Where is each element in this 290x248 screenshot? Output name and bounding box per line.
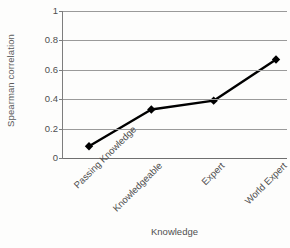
y-axis-tick-label: 0.8: [36, 36, 58, 46]
y-axis-tickmark: [59, 40, 63, 41]
x-axis-tick-label: Passing Knowledge: [71, 160, 101, 190]
gridline: [63, 70, 287, 71]
gridline: [63, 99, 287, 100]
series-line: [89, 60, 276, 147]
y-axis-tickmark: [59, 99, 63, 100]
y-axis-tick-label: 0.2: [36, 124, 58, 134]
y-axis-tickmark: [59, 70, 63, 71]
y-axis-tickmark: [59, 129, 63, 130]
y-axis-tick-label: 1: [36, 6, 58, 16]
x-axis-title: Knowledge: [62, 226, 287, 237]
x-axis-title-label: Knowledge: [151, 226, 198, 237]
line-chart: Spearman correlation 00.20.40.60.81 Pass…: [0, 0, 290, 248]
y-axis-tick-label: 0.6: [36, 65, 58, 75]
y-axis-tickmark: [59, 11, 63, 12]
y-axis-tick-label: 0.4: [36, 94, 58, 104]
plot-area: [62, 11, 287, 158]
gridline: [63, 129, 287, 130]
y-axis-title: Spearman correlation: [0, 0, 20, 160]
gridline: [63, 40, 287, 41]
data-series-spearman-correlation: [63, 11, 288, 158]
y-axis-tick-labels: 00.20.40.60.81: [28, 0, 58, 248]
y-axis-tick-label: 0: [36, 153, 58, 163]
x-axis-tick-labels: Passing KnowledgeKnowledgeableExpertWorl…: [62, 158, 287, 218]
x-axis-tick-label: Knowledgeable: [90, 160, 164, 234]
gridline: [63, 11, 287, 12]
y-axis-title-label: Spearman correlation: [5, 34, 16, 127]
